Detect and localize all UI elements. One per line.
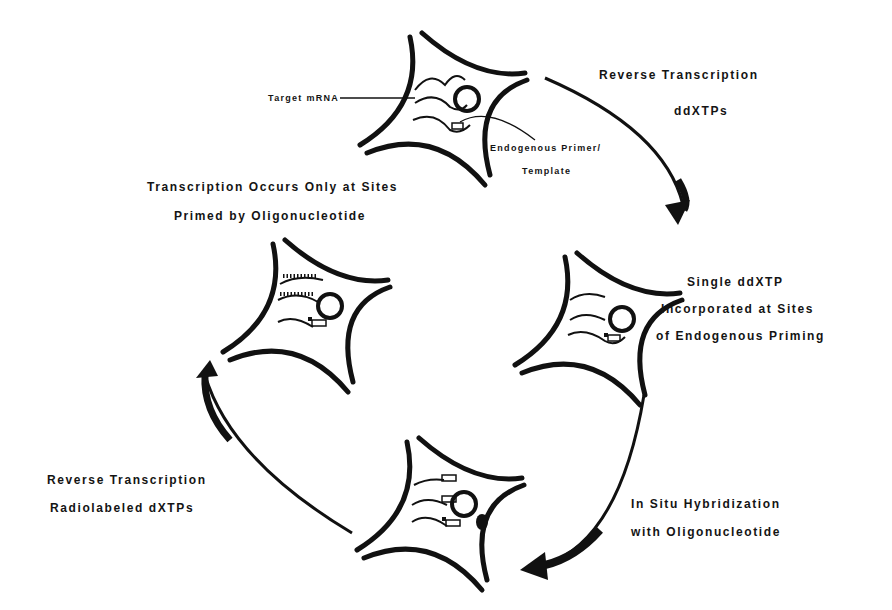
arrow-stage2-to-stage3 [520, 395, 644, 580]
stage2-caption-line2: Incorporated at Sites [661, 302, 814, 316]
cell-stage-3 [357, 438, 524, 590]
arrow2-label-line2: with Oligonucleotide [631, 525, 781, 539]
arrow1-label-line2: ddXTPs [674, 104, 728, 118]
stage2-caption-line3: of Endogenous Priming [656, 329, 825, 343]
cell-stage-1 [340, 33, 535, 185]
callout-endogenous-primer-line1: Endogenous Primer/ [490, 143, 601, 153]
stage4-caption-line2: Primed by Oligonucleotide [174, 209, 366, 223]
callout-endogenous-primer-line2: Template [522, 166, 571, 176]
arrow3-label-line2: Radiolabeled dXTPs [50, 501, 194, 515]
arrow3-label-line1: Reverse Transcription [47, 473, 207, 487]
arrow-stage3-to-stage4 [196, 360, 352, 533]
callout-target-mrna: Target mRNA [268, 93, 339, 103]
arrow1-label-line1: Reverse Transcription [599, 68, 759, 82]
arrow2-label-line1: In Situ Hybridization [631, 497, 781, 511]
stage2-caption-line1: Single ddXTP [687, 275, 784, 289]
cell-stage-4 [223, 240, 390, 392]
stage4-caption-line1: Transcription Occurs Only at Sites [147, 180, 398, 194]
